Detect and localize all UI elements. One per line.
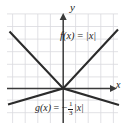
fraction-denominator: 3 [68, 110, 74, 117]
g-expression: |x| [74, 102, 84, 113]
g-arg: (x) [40, 102, 51, 113]
g-minus-sign: − [62, 102, 68, 113]
fraction-numerator: 1 [68, 101, 74, 108]
f-expression: |x| [86, 30, 96, 41]
g-fraction-one-third: 13 [68, 101, 74, 117]
f-arg: (x) [63, 30, 75, 41]
axis-label-y: y [70, 2, 75, 13]
function-label-g: g(x) = −13|x| [35, 101, 84, 117]
absolute-value-graph-figure: y x f(x) = |x| g(x) = −13|x| [0, 0, 125, 123]
axis-label-x: x [116, 80, 120, 90]
function-label-f: f(x) = |x| [60, 31, 96, 42]
